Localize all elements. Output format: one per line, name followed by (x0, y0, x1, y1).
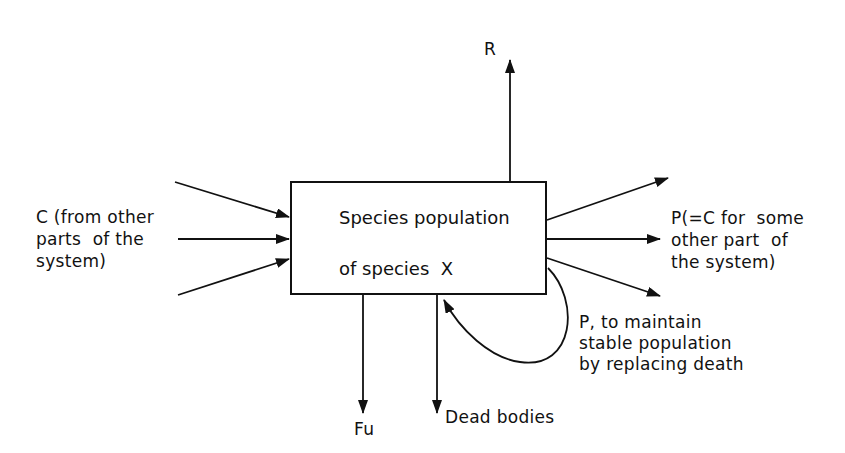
species-population-box: Species population of species X (290, 181, 547, 295)
box-title-line2: of species X (339, 258, 453, 279)
box-title-line1: Species population (339, 207, 510, 228)
input-label-line2: parts of the (36, 228, 144, 250)
production-arrow-bottom (547, 258, 660, 296)
replacement-label-line2: stable population (579, 332, 732, 354)
input-label-line1: C (from other (36, 206, 154, 228)
input-label-line3: system) (36, 250, 106, 272)
input-arrow-top (175, 182, 289, 217)
dead-bodies-label: Dead bodies (445, 406, 554, 428)
feces-label: Fu (354, 418, 374, 440)
input-arrows (175, 182, 289, 295)
production-arrow-top (547, 178, 668, 220)
production-label-line3: the system) (671, 251, 776, 273)
replacement-label-line3: by replacing death (579, 353, 744, 375)
input-arrow-bottom (178, 259, 289, 295)
production-arrows (547, 178, 668, 296)
replacement-label-line1: P, to maintain (579, 311, 702, 333)
respiration-label: R (484, 38, 496, 60)
production-label-line2: other part of (671, 229, 788, 251)
production-label-line1: P(=C for some (671, 207, 804, 229)
